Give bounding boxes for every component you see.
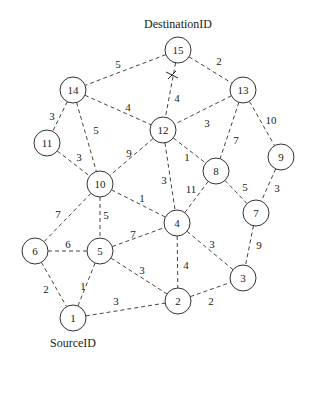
edge-weight-label: 4 [183,259,189,271]
x-mark-icon [168,71,176,79]
node-id-label: 8 [213,165,219,177]
node-13: 13 [230,77,256,103]
edge-5-4 [112,227,165,246]
edge-weight-label: 5 [115,58,121,70]
node-id-label: 5 [97,245,103,257]
edge-weight-label: 3 [113,295,119,307]
edge-weight-label: 5 [93,124,99,136]
node-id-label: 14 [68,84,80,96]
edge-14-11 [53,102,68,132]
node-1: 1 [60,305,86,331]
edge-15-12 [165,63,175,117]
edge-weight-label: 10 [266,114,278,126]
node-5: 5 [87,238,113,264]
edge-7-3 [246,226,254,266]
edge-weight-label: 1 [184,151,190,163]
edge-weight-label: 7 [55,208,61,220]
node-id-label: 7 [253,207,259,219]
edge-weight-label: 5 [103,209,109,221]
node-6: 6 [22,238,48,264]
node-id-label: 11 [42,137,53,149]
edge-weight-label: 3 [161,174,167,186]
edge-11-10 [57,151,89,176]
blocked-edge-marker [166,71,178,79]
graph-diagram: 5244353710913311531756734921332 12345678… [0,0,311,399]
edge-13-8 [220,102,239,158]
edge-15-14 [85,55,166,86]
node-7: 7 [243,200,269,226]
edge-weight-label: 6 [65,238,71,250]
node-id-label: 1 [70,312,76,324]
edge-14-12 [85,95,151,124]
edge-10-6 [44,193,91,241]
node-id-label: 9 [278,151,284,163]
edge-13-12 [175,96,232,124]
node-8: 8 [203,158,229,184]
node-id-label: 4 [174,217,180,229]
node-15: 15 [165,37,191,63]
node-9: 9 [268,144,294,170]
node-4: 4 [164,210,190,236]
node-id-label: 2 [175,295,181,307]
node-10: 10 [87,171,113,197]
node-id-label: 6 [32,245,38,257]
source-label: SourceID [50,336,96,350]
edge-weight-label: 3 [139,264,145,276]
edge-weight-label: 7 [130,228,136,240]
edge-weight-label: 3 [274,182,280,194]
edge-weight-label: 4 [174,92,180,104]
edge-weight-label: 9 [256,239,262,251]
edge-weight-label: 1 [80,280,86,292]
node-id-label: 15 [173,44,185,56]
node-14: 14 [60,77,86,103]
nodes-layer: 123456789101112131415 [22,37,294,331]
edge-15-13 [189,57,232,83]
edge-weight-label: 4 [125,101,131,113]
edge-weight-label: 9 [126,147,132,159]
edge-1-2 [86,303,165,316]
node-id-label: 13 [238,84,250,96]
edge-weight-label: 3 [209,238,215,250]
edge-weight-label: 2 [43,283,49,295]
edge-weight-label: 2 [216,55,222,67]
edge-weight-label: 1 [139,192,145,204]
edge-weight-label: 3 [204,117,210,129]
node-11: 11 [34,130,60,156]
edge-weight-label: 3 [76,151,82,163]
edge-weight-label: 5 [242,181,248,193]
edge-4-2 [177,236,178,288]
edge-weight-label: 3 [49,110,55,122]
node-12: 12 [150,117,176,143]
node-2: 2 [165,288,191,314]
node-id-label: 10 [95,178,107,190]
node-3: 3 [230,265,256,291]
destination-label: DestinationID [144,17,212,31]
node-id-label: 12 [158,124,169,136]
node-id-label: 3 [240,272,246,284]
edge-weight-label: 2 [208,295,214,307]
edge-weight-label: 7 [233,134,239,146]
edge-weight-label: 11 [186,183,197,195]
